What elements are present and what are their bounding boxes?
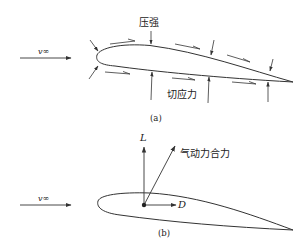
airfoil-b <box>98 193 293 230</box>
airfoil-a <box>97 45 293 82</box>
caption-b: (b) <box>158 229 170 238</box>
lift-label: L <box>140 133 147 143</box>
freestream-label-a: v∞ <box>38 48 49 56</box>
drag-label: D <box>178 200 186 210</box>
freestream-label-b: v∞ <box>38 195 49 203</box>
airfoil-forces-diagram <box>0 0 308 251</box>
shear-stress-label: 切应力 <box>167 90 197 100</box>
resultant-force-label: 气动力合力 <box>180 149 230 159</box>
pressure-center-dot <box>142 203 146 207</box>
panel-b <box>20 146 293 230</box>
shear-arrows <box>105 39 256 84</box>
caption-a: (a) <box>150 114 162 123</box>
resultant-force-arrow <box>144 146 175 205</box>
panel-a <box>20 31 293 103</box>
pressure-label: 压强 <box>139 18 159 28</box>
